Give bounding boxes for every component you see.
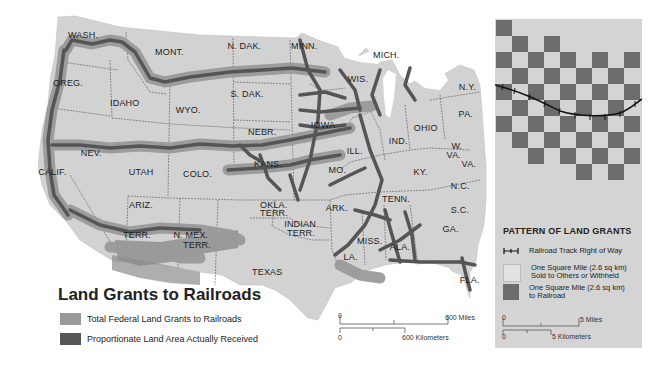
state-label: TERR. [287, 228, 315, 238]
railroad-section-square [528, 148, 544, 164]
received-land-swatch [60, 333, 81, 345]
state-label: NEV. [81, 148, 102, 158]
panel-legend-label: Sold to Others or Withheld [531, 272, 627, 280]
panel-scale-miles-zero: 0 [502, 314, 506, 321]
state-label: WASH. [68, 30, 98, 40]
state-label: MONT. [155, 47, 184, 57]
railroad-section-square [608, 132, 624, 148]
scale-km-zero: 0 [338, 334, 342, 341]
state-label: MISS. [357, 236, 383, 246]
dark-square-swatch [503, 284, 519, 300]
state-label: COLO. [183, 169, 212, 179]
state-label: N.Y. [459, 82, 476, 92]
railroad-section-square [560, 148, 576, 164]
state-label: ILL. [347, 146, 363, 156]
state-label: NEBR. [248, 127, 277, 137]
state-label: KANS. [254, 159, 282, 169]
state-label: OREG. [53, 78, 83, 88]
railroad-section-square [592, 148, 608, 164]
railroad-track-line [495, 79, 642, 129]
state-label: IDAHO [110, 98, 140, 108]
state-label: KY. [414, 167, 428, 177]
railroad-section-square [512, 36, 528, 52]
panel-scale-km-label: 5 Kilometers [552, 333, 591, 340]
railroad-section-square [576, 132, 592, 148]
state-label: CALIF. [38, 167, 66, 177]
state-label: VA. [462, 159, 476, 169]
panel-legend-label: to Railroad [529, 292, 625, 300]
railroad-section-square [496, 20, 512, 36]
total-grants-swatch [60, 313, 81, 325]
state-label: VA. [447, 150, 461, 160]
state-label: TERR. [123, 230, 151, 240]
panel-legend-label: Railroad Track Right of Way [529, 247, 622, 255]
panel-scale-miles-label: 5 Miles [580, 316, 602, 323]
map-title: Land Grants to Railroads [58, 285, 261, 305]
state-label: N. MEX. [173, 230, 208, 240]
railroad-track-icon [503, 247, 519, 255]
railroad-section-square [528, 52, 544, 68]
legend-label: Proportionate Land Area Actually Receive… [87, 334, 258, 344]
state-label: PA. [459, 109, 473, 119]
state-label: MO. [329, 165, 347, 175]
scale-km-label: 600 Kilometers [402, 334, 449, 341]
state-label: S. DAK. [230, 89, 263, 99]
state-label: ALA. [390, 242, 410, 252]
panel-legend-sold: One Square Mile (2.6 sq km) Sold to Othe… [503, 264, 627, 282]
state-label: ARK. [326, 203, 348, 213]
railroad-section-square [624, 148, 640, 164]
state-label: WYO. [176, 105, 201, 115]
state-label: UTAH [129, 167, 154, 177]
panel-scale-km-zero: 0 [502, 333, 506, 340]
state-label: S.C. [451, 205, 469, 215]
railroad-section-square [608, 164, 624, 180]
state-label: WIS. [348, 74, 368, 84]
railroad-section-square [544, 132, 560, 148]
state-label: MINN. [291, 41, 318, 51]
panel-title: PATTERN OF LAND GRANTS [503, 226, 632, 236]
state-label: TERR. [260, 208, 288, 218]
railroad-section-square [576, 164, 592, 180]
state-label: IND. [389, 136, 408, 146]
state-label: TEXAS [252, 267, 283, 277]
state-label: IOWA [311, 120, 335, 130]
state-label: MICH. [373, 50, 400, 60]
legend-label: Total Federal Land Grants to Railroads [87, 314, 242, 324]
state-label: N. DAK. [227, 41, 261, 51]
scale-miles-label: 600 Miles [445, 314, 475, 321]
light-square-swatch [503, 264, 521, 282]
legend-item-received-land: Proportionate Land Area Actually Receive… [60, 333, 258, 345]
land-grant-pattern-panel: PATTERN OF LAND GRANTS Railroad Track Ri… [495, 19, 642, 348]
state-label: GA. [443, 224, 459, 234]
scale-miles-zero: 0 [338, 312, 342, 319]
railroad-section-square [624, 52, 640, 68]
state-label: N.C. [451, 181, 470, 191]
state-label: LA. [344, 252, 358, 262]
railroad-section-square [512, 132, 528, 148]
legend-item-total-grants: Total Federal Land Grants to Railroads [60, 313, 242, 325]
railroad-section-square [560, 52, 576, 68]
state-label: ARIZ. [129, 200, 153, 210]
state-label: TERR. [183, 240, 211, 250]
state-label: OHIO [414, 123, 438, 133]
state-label: TENN. [382, 194, 410, 204]
railroad-section-square [544, 36, 560, 52]
panel-legend-railroad-land: One Square Mile (2.6 sq km) to Railroad [503, 284, 625, 300]
state-label: FLA. [460, 275, 480, 285]
railroad-section-square [592, 52, 608, 68]
railroad-section-square [496, 52, 512, 68]
panel-legend-railroad: Railroad Track Right of Way [503, 247, 622, 255]
